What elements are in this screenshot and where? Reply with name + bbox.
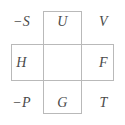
grid-cell-middle-right: F (82, 44, 125, 81)
symbol-cross-figure: −S U V H F −P G T (0, 0, 125, 125)
grid-cell-middle-left: H (0, 44, 43, 81)
grid-cell-top-right: V (82, 0, 125, 44)
grid-cell-bottom-right: T (82, 81, 125, 125)
symbol-grid: −S U V H F −P G T (0, 0, 125, 125)
grid-cell-bottom-center: G (43, 81, 82, 125)
grid-cell-top-center: U (43, 0, 82, 44)
grid-cell-center (43, 44, 82, 81)
grid-cell-top-left: −S (0, 0, 43, 44)
grid-cell-bottom-left: −P (0, 81, 43, 125)
